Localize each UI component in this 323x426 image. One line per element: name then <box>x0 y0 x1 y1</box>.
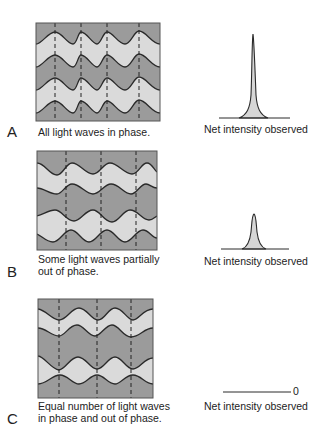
intensity-label-a: Net intensity observed <box>204 123 308 135</box>
wave-box-a <box>36 23 160 121</box>
panel-caption-a: All light waves in phase. <box>38 126 150 138</box>
intensity-peak-short <box>221 214 289 249</box>
panel-caption-b-line2: out of phase. <box>38 265 99 277</box>
diagram-canvas <box>0 0 323 426</box>
panel-letter-c: C <box>7 411 18 426</box>
panel-caption-b-line1: Some light waves partially <box>38 253 159 265</box>
panel-letter-a: A <box>7 124 17 139</box>
wave-box-b <box>37 151 157 250</box>
zero-label: 0 <box>293 385 299 397</box>
panel-caption-c-line2: in phase and out of phase. <box>38 412 162 424</box>
intensity-label-c: Net intensity observed <box>204 400 308 412</box>
panel-caption-c-line1: Equal number of light waves <box>38 400 170 412</box>
wave-box-c <box>38 299 153 398</box>
intensity-label-b: Net intensity observed <box>204 255 308 267</box>
panel-letter-b: B <box>7 264 17 279</box>
intensity-peak-tall <box>219 34 290 118</box>
